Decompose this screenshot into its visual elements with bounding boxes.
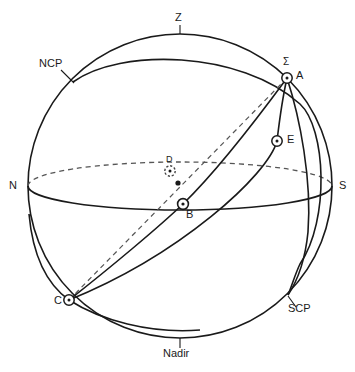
label-scp: SCP (288, 303, 311, 314)
point-e-center-dot (276, 140, 279, 143)
label-point-b: B (186, 209, 193, 220)
label-point-a: A (296, 70, 303, 81)
label-point-d: D (166, 155, 173, 164)
celestial-sphere-figure: Z Nadir N S NCP SCP Σ A B C D E (0, 0, 355, 372)
label-sigma: Σ (283, 57, 289, 67)
label-ncp: NCP (39, 58, 62, 69)
lower-arc-from-c (69, 300, 200, 331)
label-zenith: Z (175, 12, 182, 23)
label-north: N (9, 180, 17, 191)
ncp-leader-line (61, 70, 74, 83)
point-c-center-dot (68, 299, 71, 302)
point-b-center-dot (181, 202, 184, 205)
label-point-c: C (54, 295, 62, 306)
sphere-center-dot (175, 180, 180, 185)
point-a-center-dot (286, 77, 289, 80)
dashed-chord-c-d-a (69, 78, 287, 300)
label-nadir: Nadir (163, 348, 189, 359)
label-point-e: E (287, 134, 294, 145)
point-d-center-dot (169, 170, 172, 173)
upper-arc-from-c (29, 214, 69, 300)
label-south: S (339, 180, 346, 191)
celestial-sphere-drawing (0, 0, 355, 372)
